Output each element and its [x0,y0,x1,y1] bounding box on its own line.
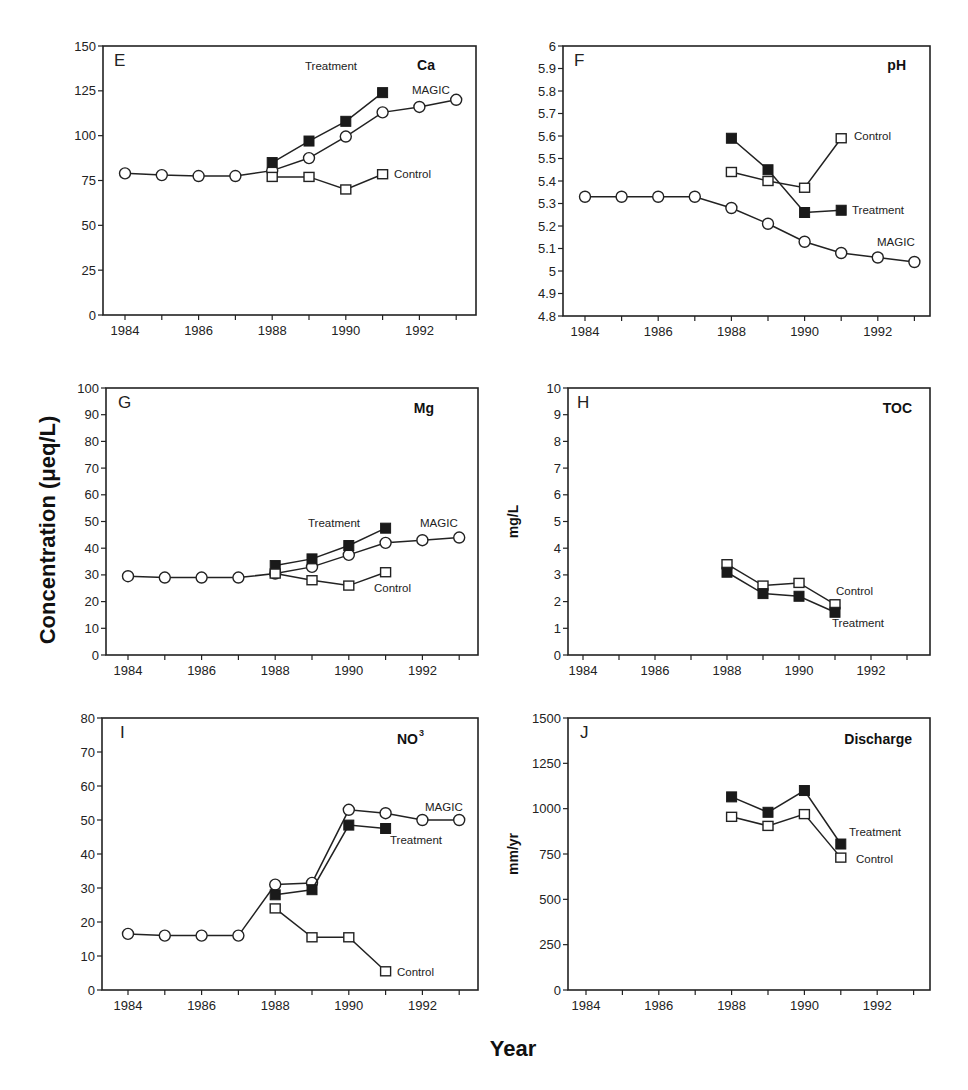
y-tick-label: 150 [74,39,96,54]
filled-square-marker [270,890,280,900]
y-tick-label: 5.9 [538,61,556,76]
y-tick-label: 500 [539,892,561,907]
open-circle-marker [159,572,170,583]
shared-x-axis-label: Year [490,1036,537,1061]
panel-letter: G [118,393,131,412]
series-line-magic [128,810,459,936]
open-square-marker [836,134,846,143]
y-tick-label: 20 [81,915,95,930]
y-tick-label: 5.5 [538,151,556,166]
series-label-control: Control [856,853,893,865]
panel-title: Mg [414,400,434,416]
x-tick-label: 1990 [331,323,360,338]
y-tick-label: 0 [554,983,561,998]
y-tick-label: 1 [554,621,561,636]
filled-square-marker [344,820,354,830]
series-line-control [727,564,835,604]
series-label-control: Control [374,582,411,594]
y-tick-label: 250 [539,937,561,952]
panel-j-discharge-chart: 0250500750100012501500198419861988199019… [505,711,930,1014]
y-tick-label: 9 [554,407,561,422]
open-circle-marker [909,257,920,268]
y-tick-label: 80 [81,711,95,726]
plot-frame [102,718,478,990]
panel-letter: I [120,723,125,742]
panel-title: TOC [883,400,912,416]
series-line-control [275,572,385,585]
open-circle-marker [123,571,134,582]
y-tick-label: 0 [92,648,99,663]
x-tick-label: 1992 [408,663,437,678]
open-square-marker [378,170,388,179]
series-line-control [275,908,385,971]
panel-title: NO [397,731,418,747]
panel-y-axis-label: mm/yr [505,832,521,875]
open-circle-marker [836,248,847,259]
open-circle-marker [451,94,462,105]
open-circle-marker [414,101,425,112]
open-circle-marker [580,191,591,202]
x-tick-label: 1988 [261,663,290,678]
y-tick-label: 5.3 [538,196,556,211]
x-tick-label: 1986 [644,324,673,339]
figure-canvas: Concentration (μeq/L) Year 0255075100125… [0,0,968,1090]
filled-square-marker [799,786,809,796]
filled-square-marker [304,136,314,146]
x-tick-label: 1988 [717,998,746,1013]
series-label-control: Control [394,168,431,180]
panel-letter: J [580,723,589,742]
x-tick-label: 1986 [641,663,670,678]
y-tick-label: 0 [89,308,96,323]
series-label-control: Control [397,966,434,978]
y-tick-label: 10 [81,949,95,964]
y-tick-label: 0 [554,648,561,663]
x-tick-label: 1992 [408,998,437,1013]
y-tick-label: 60 [85,487,99,502]
series-label-treatment: Treatment [852,204,905,216]
y-tick-label: 4.8 [538,309,556,324]
x-tick-label: 1988 [258,323,287,338]
open-circle-marker [417,815,428,826]
series-label-control: Control [854,130,891,142]
x-tick-label: 1988 [713,663,742,678]
open-circle-marker [616,191,627,202]
open-circle-marker [763,218,774,229]
y-tick-label: 1250 [532,756,561,771]
x-tick-label: 1992 [857,663,886,678]
filled-square-marker [763,165,773,175]
panel-letter: H [577,393,589,412]
open-circle-marker [799,236,810,247]
y-tick-label: 0 [88,983,95,998]
y-tick-label: 5 [554,514,561,529]
filled-square-marker [344,541,354,551]
series-label-magic: MAGIC [877,236,915,248]
open-square-marker [800,183,810,192]
open-circle-marker [233,572,244,583]
panel-title: pH [887,57,906,73]
plot-frame [563,46,930,316]
y-tick-label: 5.4 [538,174,556,189]
open-square-marker [344,933,354,942]
series-line-treatment [732,791,841,844]
open-square-marker [270,904,280,913]
open-square-marker [344,581,354,590]
filled-square-marker [381,824,391,834]
open-circle-marker [653,191,664,202]
panel-i-no3-chart: 0102030405060708019841986198819901992INO… [81,711,478,1014]
filled-square-marker [726,133,736,143]
y-tick-label: 1000 [532,801,561,816]
y-tick-label: 75 [82,173,96,188]
y-tick-label: 30 [85,567,99,582]
y-tick-label: 30 [81,881,95,896]
y-tick-label: 2 [554,594,561,609]
x-tick-label: 1986 [187,663,216,678]
x-tick-label: 1992 [863,998,892,1013]
y-tick-label: 50 [82,218,96,233]
open-square-marker [381,568,391,577]
open-square-marker [763,821,773,830]
x-tick-label: 1984 [114,663,143,678]
panel-h-toc-chart: 01234567891019841986198819901992HTOCmg/L… [505,381,930,679]
filled-square-marker [307,885,317,895]
panel-title-superscript: 3 [419,728,424,738]
y-tick-label: 6 [549,39,556,54]
